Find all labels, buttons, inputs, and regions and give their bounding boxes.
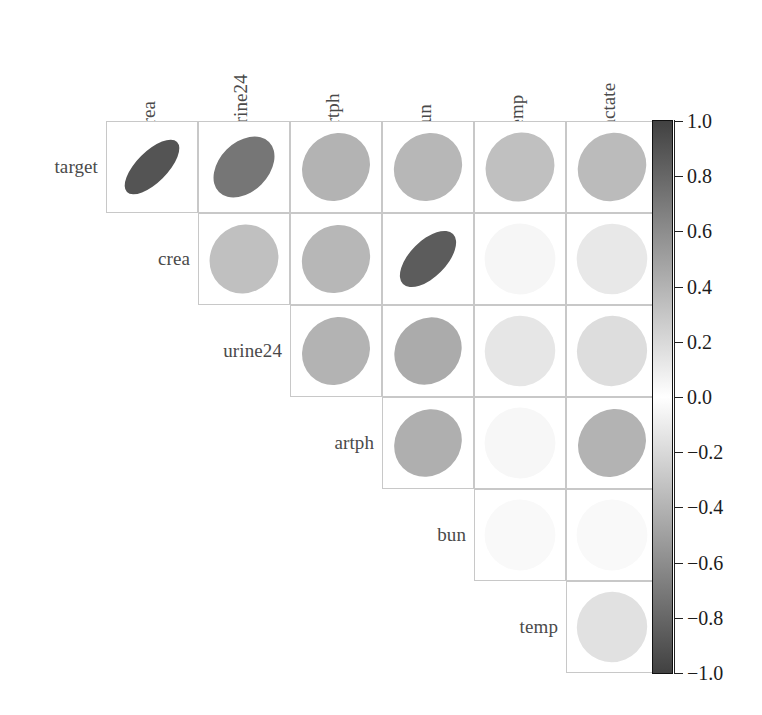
correlation-ellipse xyxy=(475,490,565,580)
colorbar-tick xyxy=(674,342,683,343)
ellipse-canvas xyxy=(475,214,565,304)
matrix-cell xyxy=(290,213,382,305)
matrix-cell xyxy=(566,305,658,397)
ellipse-canvas xyxy=(291,214,381,304)
colorbar-tick-label: −0.6 xyxy=(687,551,723,574)
colorbar-tick-label: 0.6 xyxy=(687,220,712,243)
matrix-cell xyxy=(474,305,566,397)
matrix-cell xyxy=(474,489,566,581)
correlation-ellipse xyxy=(291,214,381,304)
colorbar-tick xyxy=(674,507,683,508)
correlation-ellipse xyxy=(475,306,565,396)
matrix-cell xyxy=(566,489,658,581)
correlation-ellipse xyxy=(202,125,287,210)
matrix-cell xyxy=(382,121,474,213)
colorbar-tick xyxy=(674,673,683,674)
correlation-ellipse xyxy=(116,131,188,203)
colorbar-tick xyxy=(674,287,683,288)
row-label-crea: crea xyxy=(158,248,190,270)
matrix-cell xyxy=(474,213,566,305)
matrix-cell xyxy=(566,213,658,305)
correlation-ellipse xyxy=(475,398,565,488)
matrix-cell xyxy=(290,121,382,213)
correlation-ellipse xyxy=(567,490,657,580)
ellipse-canvas xyxy=(475,398,565,488)
matrix-cell xyxy=(382,305,474,397)
colorbar-tick-label: −1.0 xyxy=(687,662,723,685)
colorbar-tick-label: 0.2 xyxy=(687,330,712,353)
ellipse-canvas xyxy=(291,122,381,212)
matrix-cell xyxy=(198,121,290,213)
matrix-cell xyxy=(474,121,566,213)
row-label-target: target xyxy=(54,156,98,178)
ellipse-canvas xyxy=(567,582,657,672)
row-label-urine24: urine24 xyxy=(223,340,282,362)
matrix-cell xyxy=(382,397,474,489)
ellipse-canvas xyxy=(107,122,197,212)
colorbar-tick-label: 0.0 xyxy=(687,386,712,409)
correlation-ellipse xyxy=(567,214,657,304)
colorbar-tick-label: −0.4 xyxy=(687,496,723,519)
matrix-cell xyxy=(382,213,474,305)
ellipse-canvas xyxy=(199,122,289,212)
ellipse-canvas xyxy=(567,306,657,396)
ellipse-canvas xyxy=(567,214,657,304)
colorbar-tick xyxy=(674,397,683,398)
colorbar: 1.00.80.60.40.20.0−0.2−0.4−0.6−0.8−1.0 xyxy=(652,120,762,674)
correlation-ellipse xyxy=(383,122,473,212)
correlation-ellipse xyxy=(475,122,565,212)
ellipse-canvas xyxy=(475,122,565,212)
ellipse-canvas xyxy=(199,214,289,304)
colorbar-gradient xyxy=(652,120,673,674)
correlation-ellipse xyxy=(199,214,289,304)
correlation-ellipse xyxy=(383,306,473,396)
colorbar-tick xyxy=(674,452,683,453)
colorbar-tick xyxy=(674,618,683,619)
ellipse-canvas xyxy=(567,398,657,488)
ellipse-canvas xyxy=(383,398,473,488)
colorbar-tick xyxy=(674,176,683,177)
ellipse-canvas xyxy=(383,306,473,396)
colorbar-tick xyxy=(674,231,683,232)
correlation-ellipse xyxy=(567,306,657,396)
matrix-cell xyxy=(566,397,658,489)
correlation-ellipse xyxy=(567,122,657,212)
row-label-bun: bun xyxy=(437,524,466,546)
matrix-cell xyxy=(566,581,658,673)
matrix-cell xyxy=(474,397,566,489)
correlation-ellipse xyxy=(567,398,657,488)
colorbar-tick-label: 0.4 xyxy=(687,275,712,298)
correlation-ellipse xyxy=(567,582,657,672)
ellipse-canvas xyxy=(475,490,565,580)
ellipse-canvas xyxy=(383,214,473,304)
correlation-ellipse-plot: creaurine24artphbuntemplactate targetcre… xyxy=(0,0,762,715)
matrix-cell xyxy=(198,213,290,305)
correlation-ellipse xyxy=(390,221,466,297)
ellipse-canvas xyxy=(567,122,657,212)
ellipse-canvas xyxy=(567,490,657,580)
colorbar-tick xyxy=(674,121,683,122)
colorbar-tick-label: −0.2 xyxy=(687,441,723,464)
colorbar-tick xyxy=(674,563,683,564)
colorbar-tick-label: 0.8 xyxy=(687,165,712,188)
matrix-cell xyxy=(290,305,382,397)
colorbar-tick-label: −0.8 xyxy=(687,606,723,629)
ellipse-canvas xyxy=(475,306,565,396)
correlation-ellipse xyxy=(383,398,473,488)
ellipse-canvas xyxy=(383,122,473,212)
correlation-ellipse xyxy=(291,122,381,212)
correlation-ellipse xyxy=(291,306,381,396)
ellipse-canvas xyxy=(291,306,381,396)
matrix-cell xyxy=(106,121,198,213)
colorbar-tick-label: 1.0 xyxy=(687,110,712,133)
matrix-cell xyxy=(566,121,658,213)
row-label-artph: artph xyxy=(334,432,374,454)
correlation-ellipse xyxy=(475,214,565,304)
row-label-temp: temp xyxy=(520,616,558,638)
